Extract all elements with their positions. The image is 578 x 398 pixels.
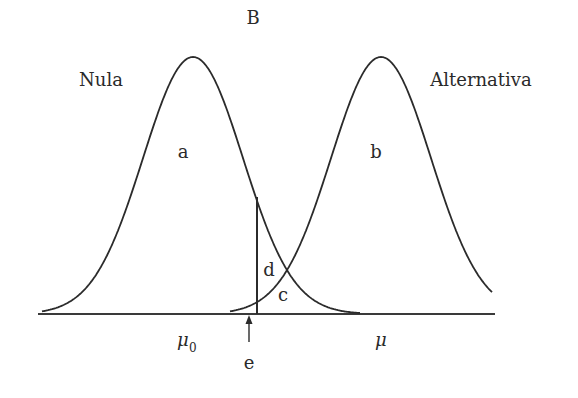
- critical-value-e-label: e: [244, 352, 255, 373]
- mu-label: μ: [375, 329, 387, 350]
- arrow-up-icon: [246, 315, 253, 324]
- region-d-label: d: [263, 259, 275, 280]
- null-distribution-curve: [42, 57, 360, 313]
- region-c-label: c: [278, 284, 288, 305]
- hypothesis-test-diagram: B Nula Alternativa a b d c e μ 0 μ: [0, 0, 578, 398]
- region-a-label: a: [178, 141, 189, 162]
- mu0-subscript: 0: [189, 341, 197, 355]
- mu0-label: μ: [177, 329, 189, 350]
- null-label: Nula: [79, 69, 123, 90]
- figure-title: B: [246, 7, 259, 28]
- region-b-label: b: [370, 141, 382, 162]
- alternative-label: Alternativa: [429, 69, 532, 90]
